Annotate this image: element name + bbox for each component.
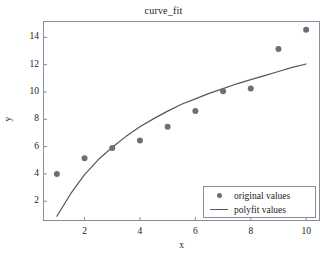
legend-label: original values bbox=[234, 191, 290, 201]
legend-label: polyfit values bbox=[234, 205, 286, 215]
y-tick-label: 2 bbox=[19, 195, 39, 205]
data-point bbox=[220, 88, 226, 94]
original-values-points bbox=[54, 27, 309, 177]
x-tick-label: 2 bbox=[73, 226, 97, 236]
data-point bbox=[109, 145, 115, 151]
x-tick-label: 6 bbox=[183, 226, 207, 236]
y-tick-label: 12 bbox=[19, 59, 39, 69]
data-point bbox=[275, 46, 281, 52]
chart-title: curve_fit bbox=[0, 5, 327, 16]
y-tick-label: 14 bbox=[19, 31, 39, 41]
line-segment-icon bbox=[204, 209, 234, 210]
data-point bbox=[54, 171, 60, 177]
x-axis-tick-labels: 246810 bbox=[0, 226, 327, 240]
chart-figure: curve_fit y 2468101214 246810 x original… bbox=[0, 0, 327, 257]
marker-dot-icon bbox=[204, 193, 234, 198]
data-point bbox=[248, 86, 254, 92]
data-point bbox=[82, 155, 88, 161]
y-tick-label: 6 bbox=[19, 141, 39, 151]
data-point bbox=[303, 27, 309, 33]
legend-item-polyfit-values: polyfit values bbox=[204, 202, 317, 217]
data-point bbox=[192, 108, 198, 114]
y-axis-label: y bbox=[3, 107, 13, 131]
x-tick-label: 10 bbox=[294, 226, 318, 236]
legend-item-original-values: original values bbox=[204, 188, 317, 203]
chart-legend: original values polyfit values bbox=[203, 186, 316, 218]
x-tick-label: 4 bbox=[128, 226, 152, 236]
y-tick-label: 10 bbox=[19, 86, 39, 96]
data-point bbox=[165, 124, 171, 130]
y-tick-label: 4 bbox=[19, 168, 39, 178]
data-point bbox=[137, 137, 143, 143]
y-axis-tick-labels: 2468101214 bbox=[15, 0, 39, 257]
x-axis-label: x bbox=[43, 240, 320, 250]
y-tick-label: 8 bbox=[19, 113, 39, 123]
x-tick-label: 8 bbox=[239, 226, 263, 236]
